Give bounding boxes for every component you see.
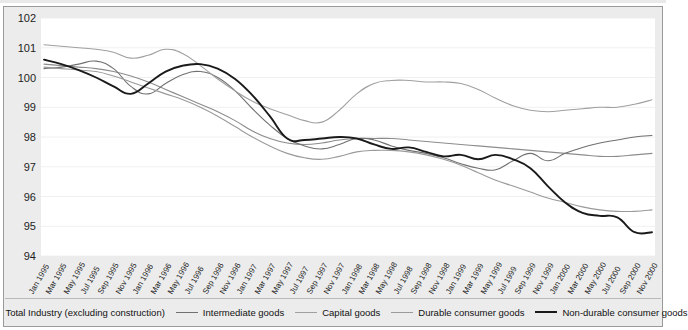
legend-label: Intermediate goods: [203, 307, 284, 318]
legend-label: Total Industry (excluding construction): [5, 307, 164, 318]
series-lines: [44, 45, 652, 234]
legend-label: Durable consumer goods: [418, 307, 524, 318]
y-axis: 102101100999897969594: [4, 7, 41, 257]
legend-label: Capital goods: [322, 307, 380, 318]
y-axis-tick-label: 99: [24, 102, 36, 113]
y-axis-tick-label: 101: [18, 43, 36, 54]
legend-line-swatch: [295, 312, 317, 313]
x-axis: Jan 1995Mar 1995May 1995Jul 1995Sep 1995…: [41, 256, 655, 300]
line-chart-svg: [41, 18, 655, 256]
legend-line-swatch: [391, 312, 413, 313]
plot-area: [41, 18, 655, 256]
y-axis-tick-label: 102: [18, 13, 36, 24]
legend-item[interactable]: Durable consumer goods: [391, 307, 524, 318]
legend-label: Non-durable consumer goods: [562, 307, 687, 318]
y-axis-tick-label: 100: [18, 73, 36, 84]
y-axis-tick-label: 94: [24, 251, 36, 262]
legend-line-swatch: [176, 312, 198, 313]
y-axis-tick-label: 96: [24, 192, 36, 203]
legend-item[interactable]: Total Industry (excluding construction): [0, 307, 165, 318]
legend-line-swatch: [535, 311, 557, 313]
y-axis-tick-label: 98: [24, 132, 36, 143]
y-axis-tick-label: 97: [24, 162, 36, 173]
series-line: [44, 60, 652, 234]
legend-item[interactable]: Capital goods: [295, 307, 380, 318]
legend-item[interactable]: Non-durable consumer goods: [535, 307, 687, 318]
cropped-content-sliver: [0, 0, 666, 3]
chart-legend: Total Industry (excluding construction)I…: [5, 298, 661, 325]
legend-item[interactable]: Intermediate goods: [176, 307, 284, 318]
y-axis-tick-label: 95: [24, 221, 36, 232]
chart-frame: 102101100999897969594 Jan 1995Mar 1995Ma…: [3, 6, 663, 327]
